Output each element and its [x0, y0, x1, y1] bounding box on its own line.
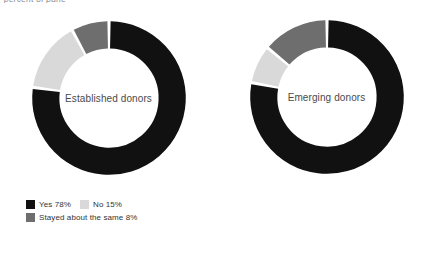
- donut-chart-established: Established donors: [29, 18, 189, 178]
- legend-item: No 15%: [80, 200, 122, 209]
- legend-swatch: [80, 200, 89, 209]
- legend-established: Yes 78%No 15%Stayed about the same 8%: [26, 198, 137, 224]
- legend-item: Yes 78%: [26, 200, 71, 209]
- chart-panel-emerging: Emerging donors Yes 78%No 8%Stayed about…: [218, 0, 435, 253]
- legend-swatch: [26, 200, 35, 209]
- legend-label: Yes 78%: [39, 201, 71, 209]
- chart-panel-established: Established donors Yes 78%No 15%Stayed a…: [0, 0, 217, 253]
- legend-row: Stayed about the same 8%: [26, 211, 137, 224]
- legend-label: Stayed about the same 8%: [39, 214, 137, 222]
- donut-center-label-established: Established donors: [65, 93, 152, 104]
- legend-swatch: [26, 213, 35, 222]
- donut-segment: [79, 35, 107, 42]
- donut-center-label-emerging: Emerging donors: [288, 92, 366, 103]
- donut-segment: [279, 34, 326, 56]
- legend-item: Stayed about the same 8%: [26, 213, 137, 222]
- donut-segment: [46, 43, 77, 88]
- legend-row: Yes 78%No 15%: [26, 198, 137, 211]
- donut-segment: [265, 58, 277, 84]
- donut-chart-emerging: Emerging donors: [247, 17, 407, 177]
- legend-label: No 15%: [93, 201, 122, 209]
